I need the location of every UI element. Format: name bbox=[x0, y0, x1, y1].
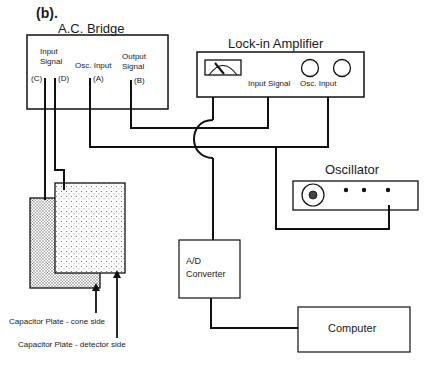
bridge-osc-input-label: Osc. Input bbox=[75, 62, 111, 70]
port-b-label: (B) bbox=[134, 77, 145, 85]
figure-label: (b). bbox=[36, 6, 58, 20]
indicator-dot-icon bbox=[362, 188, 366, 192]
detector-side-caption: Capacitor Plate - detector side bbox=[18, 341, 126, 349]
capacitor-plate-detector bbox=[55, 183, 125, 273]
knob-icon bbox=[334, 60, 351, 77]
adc-label-2: Converter bbox=[186, 270, 226, 279]
diagram-canvas bbox=[0, 0, 425, 365]
lockin-title: Lock-in Amplifier bbox=[228, 37, 323, 50]
port-c-label: (C) bbox=[31, 75, 42, 83]
indicator-dot-icon bbox=[386, 188, 390, 192]
lockin-osc-input-label: Osc. Input bbox=[300, 80, 336, 88]
bridge-input-label-1: Input bbox=[40, 48, 58, 56]
computer-label: Computer bbox=[328, 323, 376, 334]
bridge-output-label-1: Output bbox=[122, 53, 146, 61]
adc-label-1: A/D bbox=[186, 257, 201, 266]
knob-icon bbox=[302, 60, 319, 77]
bridge-output-label-2: Signal bbox=[122, 63, 144, 71]
arrow-detector-side-icon bbox=[113, 270, 121, 338]
port-d-label: (D) bbox=[58, 75, 69, 83]
lockin-input-signal-label: Input Signal bbox=[248, 80, 290, 88]
port-a-label: (A) bbox=[93, 75, 104, 83]
bridge-input-label-2: Signal bbox=[40, 58, 62, 66]
meter-icon bbox=[205, 60, 241, 75]
cone-side-caption: Capacitor Plate - cone side bbox=[9, 318, 105, 326]
indicator-dot-icon bbox=[344, 188, 348, 192]
dial-icon bbox=[302, 184, 324, 206]
ac-bridge-title: A.C. Bridge bbox=[58, 22, 124, 35]
oscillator-title: Oscillator bbox=[325, 163, 379, 176]
